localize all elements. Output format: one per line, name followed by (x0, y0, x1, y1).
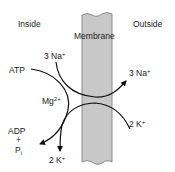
atp-label: ATP (9, 65, 25, 75)
sodium-outside-label: 3 Na+ (129, 68, 151, 78)
potassium-outside-label: 2 K+ (129, 119, 146, 129)
sodium-potassium-pump-diagram: Inside Outside Membrane ATP 3 Na+ 3 Na+ … (0, 0, 175, 172)
plus-label: + (16, 135, 21, 145)
magnesium-label: Mg2+ (42, 96, 61, 106)
inside-label: Inside (18, 19, 41, 29)
membrane-label: Membrane (74, 31, 115, 41)
sodium-inside-label: 3 Na+ (44, 51, 66, 61)
outside-label: Outside (133, 19, 163, 29)
phosphate-label: Pi (15, 145, 22, 156)
potassium-inside-label: 2 K+ (49, 155, 66, 165)
